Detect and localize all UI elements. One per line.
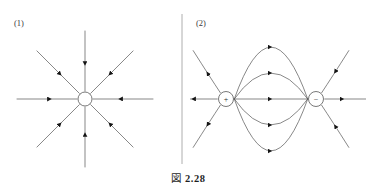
caption-label: 図 — [171, 173, 182, 184]
outer-field-line — [322, 51, 349, 93]
panel-2-label: (2) — [196, 18, 206, 28]
outer-field-line — [193, 105, 220, 147]
outer-field-line — [193, 51, 220, 93]
figure-container: (1) (2) +− 図2.28 — [0, 0, 376, 193]
field-line — [37, 105, 79, 147]
negative-charge-sign: − — [314, 95, 319, 104]
panel-1-charge — [78, 92, 92, 106]
caption-number: 2.28 — [185, 173, 205, 184]
physics-field-line-diagram: (1) (2) +− — [0, 0, 376, 193]
figure-caption: 図2.28 — [0, 170, 376, 185]
outer-field-line — [322, 105, 349, 147]
dipole-arc — [234, 99, 307, 125]
panel-1-label: (1) — [14, 18, 24, 28]
field-line — [91, 51, 133, 93]
panel-2-field-lines — [190, 47, 366, 151]
field-line — [37, 51, 79, 93]
dipole-arc — [234, 73, 307, 99]
positive-charge-sign: + — [224, 95, 229, 104]
charge-marker — [78, 92, 92, 106]
field-line — [91, 105, 133, 147]
